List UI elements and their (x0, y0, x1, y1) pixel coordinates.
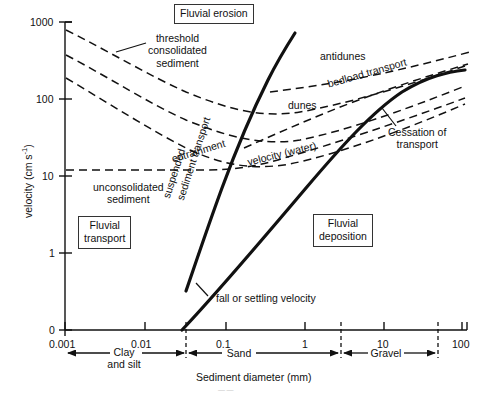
clay-and-silt-label: Clay and silt (100, 346, 148, 371)
fall-leader (196, 283, 208, 296)
y-tick-label-10: 10 (42, 170, 54, 182)
cessation-label-line-1: Cessation of (388, 126, 446, 138)
unconsolidated-label-line-1: unconsolidated (93, 181, 164, 193)
y-axis-title-main: velocity (cm s (22, 154, 34, 218)
fluvial-transport-box-line-2: transport (84, 232, 125, 245)
y-axis-title-close: ) (22, 144, 34, 148)
x-axis-title: Sediment diameter (mm) (196, 371, 312, 383)
fluvial-deposition-box-line-2: deposition (319, 230, 367, 243)
threshold-curve-upper (66, 30, 465, 114)
x-tick-label-1: 1 (302, 338, 308, 350)
sand-label: Sand (224, 347, 254, 359)
threshold-label-line-2: consolidated (148, 44, 207, 56)
plot-vector-layer (0, 0, 480, 396)
cessation-leader (382, 108, 396, 126)
clay-and-silt-line-1: Clay (100, 346, 148, 358)
cessation-label-line-2: transport (388, 138, 446, 150)
y-tick-label-1000: 1000 (30, 16, 53, 28)
threshold-consolidated-sediment-label: threshold consolidated sediment (148, 32, 207, 69)
unconsolidated-sediment-label: unconsolidated sediment (93, 181, 164, 206)
fall-or-settling-velocity-label: fall or settling velocity (216, 292, 316, 304)
clay-and-silt-line-2: and silt (100, 358, 148, 370)
fluvial-transport-box: Fluvial transport (78, 216, 131, 249)
x-tick-label-100: 100 (452, 338, 470, 350)
fall-settling-velocity-curve (182, 70, 465, 330)
x-axis-ticks (65, 322, 462, 336)
y-axis-title-exponent: -1 (20, 148, 29, 155)
fluvial-erosion-box: Fluvial erosion (174, 4, 254, 24)
hjulstrom-diagram: velocity (cm s-1) 1000 100 10 1 0 0.001 … (0, 0, 480, 396)
unconsolidated-label-line-2: sediment (93, 193, 164, 205)
fluvial-deposition-box: Fluvial deposition (313, 214, 373, 247)
antidunes-label: antidunes (320, 50, 366, 62)
caption-artifact: — — (218, 386, 233, 393)
gravel-label: Gravel (366, 347, 406, 359)
x-tick-label-0-001: 0.001 (49, 338, 75, 350)
y-tick-label-1: 1 (49, 247, 55, 259)
suspended-sediment-transport-curve (186, 33, 295, 291)
threshold-label-line-1: threshold (148, 32, 207, 44)
fluvial-transport-box-line-1: Fluvial (84, 219, 125, 232)
threshold-leader (116, 43, 146, 52)
fluvial-deposition-box-line-1: Fluvial (319, 217, 367, 230)
fluvial-erosion-box-line-1: Fluvial erosion (180, 7, 248, 20)
y-tick-label-100: 100 (36, 93, 54, 105)
y-tick-label-0: 0 (49, 324, 55, 336)
y-axis-title: velocity (cm s-1) (20, 144, 34, 218)
threshold-label-line-3: sediment (148, 57, 207, 69)
cessation-of-transport-label: Cessation of transport (388, 126, 446, 151)
dunes-label: dunes (288, 99, 317, 111)
axis-lines (65, 22, 467, 330)
